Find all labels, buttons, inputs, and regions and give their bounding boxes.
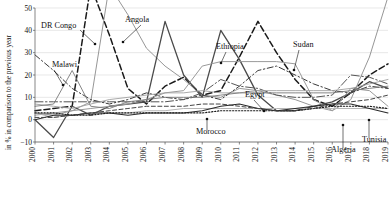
annotation-label-sudan: Sudan — [293, 40, 313, 49]
gridlines — [35, 8, 388, 142]
x-tick-label: 2014 — [288, 147, 297, 162]
series-lines — [35, 0, 388, 138]
x-tick-label: 2018 — [362, 147, 371, 162]
x-tick-label: 2019 — [381, 147, 390, 162]
annotation-label-morocco: Morocco — [196, 127, 226, 136]
line-chart: 50403020100−10 2000200120022003200420052… — [0, 0, 392, 200]
annotation-label-dr-congo: DR Congo — [41, 21, 76, 30]
y-tick-label: 20 — [25, 71, 33, 80]
series-line-dr-congo — [35, 0, 388, 111]
x-tick-label: 2002 — [65, 147, 74, 162]
annotation-label-algeria: Algeria — [331, 145, 356, 154]
annotation-label-egypt: Egypt — [245, 90, 265, 99]
chart-canvas: 50403020100−10 2000200120022003200420052… — [0, 0, 392, 200]
x-tick-label: 2012 — [251, 147, 260, 162]
annotation-leader — [254, 100, 264, 111]
annotation-leader — [54, 70, 63, 85]
annotation-label-tunisia: Tunisia — [362, 135, 387, 144]
x-tick-label: 2000 — [28, 147, 37, 162]
x-tick-label: 2013 — [270, 147, 279, 162]
x-tick-label: 2004 — [102, 147, 111, 162]
annotation-label-ethiopia: Ethiopia — [216, 42, 244, 51]
x-tick-label: 2011 — [232, 147, 241, 162]
y-axis-ticks: 50403020100−10 — [20, 4, 35, 147]
y-tick-label: −10 — [20, 138, 32, 147]
annotation-label-angola: Angola — [125, 15, 149, 24]
y-tick-label: 0 — [28, 115, 32, 124]
y-tick-label: 30 — [25, 48, 33, 57]
x-tick-label: 2010 — [214, 147, 223, 162]
x-tick-label: 2008 — [177, 147, 186, 162]
y-tick-label: 40 — [25, 26, 33, 35]
y-tick-label: 10 — [25, 93, 33, 102]
x-tick-label: 2009 — [195, 147, 204, 162]
x-tick-label: 2006 — [139, 147, 148, 162]
series-annotations: DR CongoAngolaMalawiEthiopiaSudanEgyptMo… — [41, 15, 387, 154]
x-tick-label: 2001 — [47, 147, 56, 162]
x-tick-label: 2015 — [307, 147, 316, 162]
y-tick-label: 50 — [25, 4, 33, 13]
series-line-ethiopia — [35, 21, 388, 137]
x-tick-label: 2005 — [121, 147, 130, 162]
x-tick-label: 2007 — [158, 147, 167, 162]
series-line-sudan — [35, 62, 388, 116]
annotation-label-malawi: Malawi — [52, 60, 78, 69]
x-tick-label: 2003 — [84, 147, 93, 162]
y-axis-label: in % in comparison to the previous year — [5, 35, 13, 150]
